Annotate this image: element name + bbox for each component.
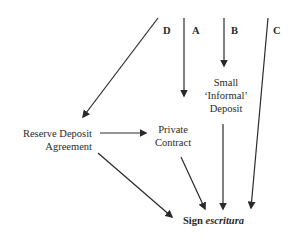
route-label-d: D	[163, 25, 171, 36]
edge-reserve-to-sign	[98, 153, 172, 217]
node-line: Contract	[150, 136, 196, 149]
node-reserve-deposit-agreement: Reserve Deposit Agreement	[10, 127, 92, 153]
node-sign-escritura: Sign escritura	[183, 214, 244, 227]
node-line: Private	[150, 123, 196, 136]
edge-private-to-sign	[181, 157, 205, 209]
route-label-b: B	[231, 25, 238, 36]
node-line: ‘Informal’	[198, 89, 254, 102]
route-label-c: C	[273, 25, 281, 36]
sign-prefix: Sign	[183, 215, 203, 226]
node-line: Agreement	[10, 140, 92, 153]
node-line: Reserve Deposit	[10, 127, 92, 140]
route-label-a: A	[192, 25, 200, 36]
node-private-contract: Private Contract	[150, 123, 196, 149]
node-line: Deposit	[198, 102, 254, 115]
node-line: Small	[198, 76, 254, 89]
edge-d-to-reserve	[83, 18, 158, 117]
diagram-edges	[0, 0, 298, 239]
node-small-informal-deposit: Small ‘Informal’ Deposit	[198, 76, 254, 115]
sign-emphasis: escritura	[205, 215, 244, 226]
